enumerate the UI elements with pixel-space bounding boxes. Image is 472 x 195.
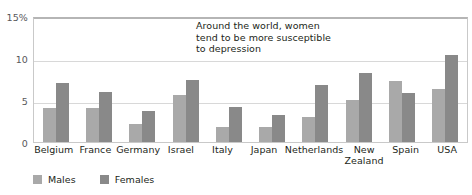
bar-females <box>56 83 69 142</box>
bar-group <box>34 19 77 142</box>
bar-females <box>315 85 328 142</box>
x-axis-tick-label: USA <box>426 145 468 166</box>
bar-females <box>272 115 285 142</box>
depression-by-gender-bar-chart: 051015% BelgiumFranceGermanyIsraelItalyJ… <box>0 0 472 195</box>
bar-males <box>389 81 402 142</box>
x-axis-tick-label: Netherlands <box>285 145 343 166</box>
bar-group <box>77 19 120 142</box>
bar-females <box>186 80 199 142</box>
legend-label: Females <box>115 174 155 185</box>
x-axis-labels: BelgiumFranceGermanyIsraelItalyJapanNeth… <box>33 145 468 166</box>
bar-males <box>302 117 315 142</box>
x-axis-tick-label: New Zealand <box>343 145 385 166</box>
bar-males <box>259 127 272 142</box>
y-axis-tick-label: 15% <box>7 12 28 23</box>
bar-males <box>86 108 99 142</box>
bar-females <box>99 92 112 142</box>
bar-group <box>121 19 164 142</box>
legend-swatch <box>33 175 42 184</box>
y-axis-tick-label: 10 <box>16 54 28 65</box>
x-axis-tick-label: Japan <box>243 145 285 166</box>
x-axis-tick-label: Spain <box>385 145 427 166</box>
bar-females <box>229 107 242 142</box>
y-axis-tick-label: 5 <box>22 96 28 107</box>
bar-males <box>346 100 359 142</box>
x-axis-tick-label: Germany <box>116 145 160 166</box>
legend-item-females: Females <box>100 174 155 185</box>
y-axis-tick-label: 0 <box>22 138 28 149</box>
bar-females <box>402 93 415 142</box>
chart-annotation: Around the world, women tend to be more … <box>196 20 331 55</box>
legend-label: Males <box>48 174 76 185</box>
legend: MalesFemales <box>33 174 154 185</box>
bar-group <box>337 19 380 142</box>
bar-males <box>432 89 445 142</box>
bar-group <box>424 19 467 142</box>
y-axis: 051015% <box>0 0 32 150</box>
bar-females <box>359 73 372 142</box>
x-axis-tick-label: France <box>75 145 117 166</box>
bar-group <box>380 19 423 142</box>
bar-males <box>173 95 186 142</box>
legend-item-males: Males <box>33 174 76 185</box>
bar-females <box>142 111 155 142</box>
bar-males <box>43 108 56 142</box>
x-axis-tick-label: Belgium <box>33 145 75 166</box>
bar-females <box>445 55 458 142</box>
bar-males <box>216 127 229 142</box>
x-axis-tick-label: Israel <box>160 145 202 166</box>
legend-swatch <box>100 175 109 184</box>
x-axis-tick-label: Italy <box>202 145 244 166</box>
bar-males <box>129 124 142 142</box>
